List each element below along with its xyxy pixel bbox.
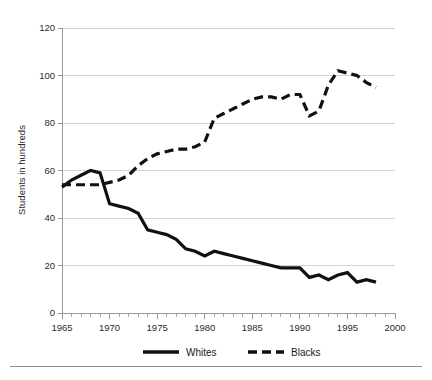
y-tick-label: 20	[44, 260, 55, 271]
y-tick-label: 80	[44, 117, 55, 128]
x-tick-label: 1980	[194, 322, 215, 333]
y-axis-title: Students in hundreds	[16, 125, 27, 215]
series-group	[62, 71, 376, 282]
y-tick-label: 60	[44, 165, 55, 176]
chart-figure: 020406080100120 196519701975198019851990…	[0, 0, 432, 380]
legend-label-whites: Whites	[186, 347, 217, 358]
legend: WhitesBlacks	[143, 347, 320, 358]
x-tick-label: 1975	[147, 322, 168, 333]
footer-divider	[10, 366, 422, 367]
x-tick-label: 1965	[51, 322, 72, 333]
y-tick-label: 40	[44, 212, 55, 223]
x-tick-label: 2000	[384, 322, 405, 333]
line-chart: 020406080100120 196519701975198019851990…	[0, 0, 432, 380]
x-tick-label: 1985	[242, 322, 263, 333]
x-tick-label: 1970	[99, 322, 120, 333]
x-tick-group: 19651970197519801985199019952000	[51, 313, 405, 333]
y-tick-label: 100	[39, 70, 55, 81]
y-tick-label: 0	[50, 307, 55, 318]
y-tick-group: 020406080100120	[39, 22, 62, 318]
x-tick-label: 1990	[289, 322, 310, 333]
y-tick-label: 120	[39, 22, 55, 33]
legend-label-blacks: Blacks	[291, 347, 320, 358]
series-line-blacks	[62, 71, 376, 185]
gridlines-group	[62, 28, 395, 266]
x-tick-label: 1995	[337, 322, 358, 333]
